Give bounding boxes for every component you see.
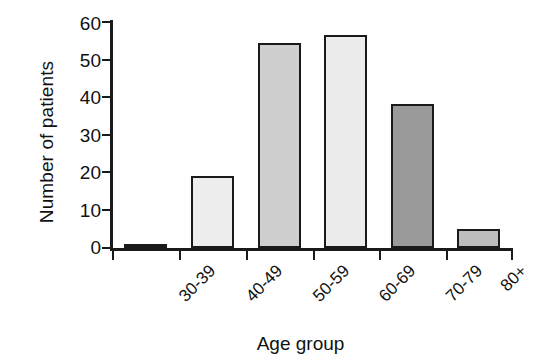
x-tick-mark-6 [511, 251, 513, 260]
y-tick-mark-60 [102, 21, 111, 23]
y-tick-mark-30 [102, 134, 111, 136]
y-tick-label-0: 0 [59, 238, 101, 257]
bar-30-39 [124, 244, 167, 248]
x-axis-title: Age group [0, 333, 535, 355]
x-tick-label-60-69: 60-69 [376, 262, 419, 305]
plot-area [112, 20, 512, 248]
x-tick-mark-5 [446, 251, 448, 260]
x-tick-mark-2 [246, 251, 248, 260]
y-tick-mark-40 [102, 96, 111, 98]
y-tick-label-60: 60 [59, 14, 101, 33]
y-axis-tick-labels: 60 50 40 30 20 10 0 [49, 0, 101, 364]
y-tick-mark-50 [102, 59, 111, 61]
y-tick-label-40: 40 [59, 88, 101, 107]
bar-60-69 [324, 35, 367, 248]
y-tick-mark-20 [102, 171, 111, 173]
x-tick-label-30-39: 30-39 [176, 262, 219, 305]
y-tick-mark-0 [102, 247, 111, 249]
bar-50-59 [258, 43, 301, 248]
x-tick-mark-3 [313, 251, 315, 260]
x-axis-line [110, 248, 513, 251]
y-tick-label-50: 50 [59, 51, 101, 70]
y-tick-mark-10 [102, 209, 111, 211]
x-tick-mark-4 [379, 251, 381, 260]
x-tick-label-70-79: 70-79 [443, 262, 486, 305]
bar-chart: Number of patients 60 50 40 30 20 10 0 3… [0, 0, 535, 364]
x-tick-label-40-49: 40-49 [243, 262, 286, 305]
x-tick-label-50-59: 50-59 [310, 262, 353, 305]
x-tick-label-80plus: 80+ [497, 262, 530, 295]
x-axis-title-text: Age group [257, 333, 345, 355]
x-tick-mark-0 [112, 251, 114, 260]
y-tick-label-10: 10 [59, 201, 101, 220]
x-tick-mark-1 [179, 251, 181, 260]
bar-40-49 [191, 176, 234, 248]
bar-70-79 [391, 104, 434, 248]
y-tick-label-20: 20 [59, 163, 101, 182]
bar-80plus [457, 229, 500, 248]
y-tick-label-30: 30 [59, 126, 101, 145]
